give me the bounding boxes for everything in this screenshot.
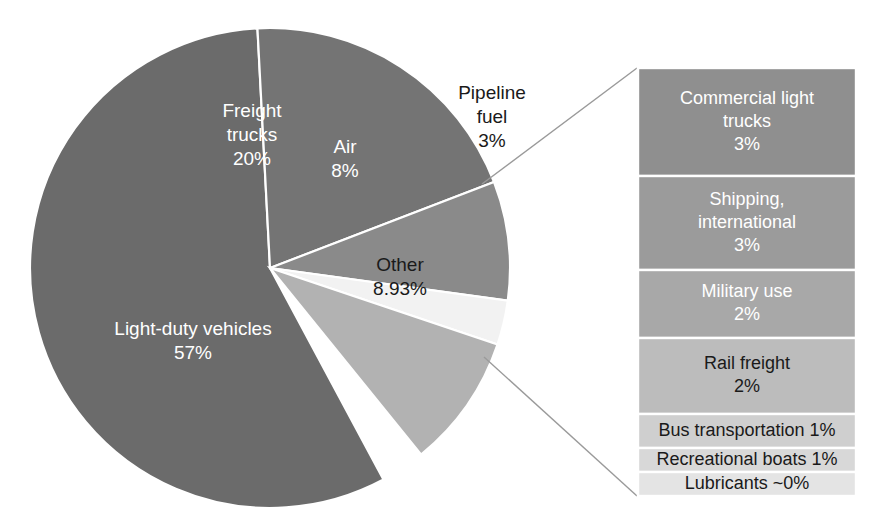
pie-slice-label-other: 8.93% — [373, 278, 427, 299]
breakout-bar: Commercial lighttrucks3%Shipping,interna… — [638, 68, 856, 496]
pie-slice-label-freight-trucks: trucks — [227, 124, 278, 145]
pie-slice-label-freight-trucks: Freight — [222, 100, 282, 121]
pie-chart: Light-duty vehicles57%Freighttrucks20%Ai… — [30, 28, 526, 508]
pie-slice-label-air: Air — [333, 136, 357, 157]
bar-segment-label-commercial-light-trucks: 3% — [734, 134, 760, 154]
bar-segment-label-shipping-international: international — [698, 212, 796, 232]
pie-slice-label-pipeline-fuel: 3% — [478, 130, 506, 151]
bar-segment-label-commercial-light-trucks: Commercial light — [680, 88, 814, 108]
bar-segment-label-lubricants: Lubricants ~0% — [685, 473, 810, 493]
bar-segment-label-rail-freight: Rail freight — [704, 353, 790, 373]
bar-segment-label-shipping-international: Shipping, — [709, 189, 784, 209]
pie-chart-figure: Light-duty vehicles57%Freighttrucks20%Ai… — [0, 0, 886, 532]
pie-slice-label-pipeline-fuel: fuel — [477, 106, 508, 127]
chart-canvas: Light-duty vehicles57%Freighttrucks20%Ai… — [0, 0, 886, 532]
pie-slice-label-light-duty-vehicles: 57% — [174, 342, 212, 363]
bar-segment-label-military-use: 2% — [734, 304, 760, 324]
pie-slice-label-air: 8% — [331, 160, 359, 181]
bar-segment-label-rail-freight: 2% — [734, 376, 760, 396]
bar-segment-label-shipping-international: 3% — [734, 235, 760, 255]
bar-segment-label-military-use: Military use — [701, 281, 792, 301]
pie-slice-label-freight-trucks: 20% — [233, 148, 271, 169]
bar-segment-label-recreational-boats: Recreational boats 1% — [656, 449, 837, 469]
pie-slice-label-light-duty-vehicles: Light-duty vehicles — [114, 318, 271, 339]
bar-segment-label-commercial-light-trucks: trucks — [723, 111, 771, 131]
bar-segment-label-bus-transportation: Bus transportation 1% — [658, 420, 835, 440]
leader-bottom — [484, 357, 637, 496]
pie-slice-label-other: Other — [376, 254, 424, 275]
pie-slice-label-pipeline-fuel: Pipeline — [458, 82, 526, 103]
